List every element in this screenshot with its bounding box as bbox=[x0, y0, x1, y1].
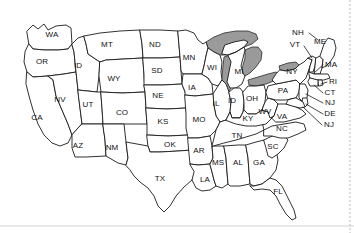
state-label-ri: RI bbox=[329, 78, 337, 86]
state-label-az: AZ bbox=[73, 142, 83, 150]
state-label-tn: TN bbox=[232, 132, 243, 140]
leader-line-vt bbox=[304, 46, 312, 58]
state-label-nd: ND bbox=[149, 41, 161, 49]
state-label-va: VA bbox=[277, 113, 287, 121]
state-label-md: NJ bbox=[324, 121, 334, 129]
state-label-wa: WA bbox=[46, 31, 59, 39]
state-label-in: ID bbox=[228, 97, 236, 105]
state-label-ca: CA bbox=[31, 114, 42, 122]
state-label-oh: OH bbox=[246, 95, 258, 103]
state-ne-shape bbox=[144, 84, 188, 109]
state-label-ga: GA bbox=[253, 159, 265, 167]
state-label-ia: IA bbox=[188, 84, 196, 92]
state-label-mo: MO bbox=[192, 116, 205, 124]
state-label-nj: NJ bbox=[325, 99, 335, 107]
state-label-il: IL bbox=[213, 100, 220, 108]
state-label-ar: AR bbox=[193, 147, 204, 155]
state-label-sd: SD bbox=[151, 67, 162, 75]
state-ct-shape bbox=[308, 78, 318, 86]
state-label-tx: TX bbox=[155, 175, 165, 183]
state-label-fl: FL bbox=[273, 188, 283, 196]
state-wy-shape bbox=[99, 58, 145, 93]
state-label-la: LA bbox=[200, 176, 210, 184]
state-label-ma: MA bbox=[325, 61, 337, 69]
state-label-sc: SC bbox=[267, 143, 278, 151]
state-label-pa: PA bbox=[278, 87, 288, 95]
leader-line-ct bbox=[314, 85, 323, 93]
state-label-mn: MN bbox=[183, 54, 196, 62]
state-label-wy: WY bbox=[107, 75, 120, 83]
state-label-mt: MT bbox=[101, 41, 113, 49]
state-label-de: DE bbox=[324, 110, 335, 118]
leader-line-md bbox=[303, 107, 322, 125]
state-label-nv: NV bbox=[54, 96, 65, 104]
state-label-ct: CT bbox=[325, 89, 336, 97]
state-mt-shape bbox=[84, 30, 143, 62]
state-label-ok: OK bbox=[164, 141, 176, 149]
state-label-id: ID bbox=[74, 62, 82, 70]
state-label-ny: NY bbox=[286, 68, 297, 76]
state-label-me: ME bbox=[314, 38, 326, 46]
state-label-nm: NM bbox=[106, 144, 119, 152]
state-label-ks: KS bbox=[158, 118, 169, 126]
state-label-wi: WI bbox=[207, 64, 217, 72]
state-label-or: OR bbox=[36, 58, 48, 66]
state-label-wv: WV bbox=[258, 108, 271, 116]
state-label-ms: MS bbox=[212, 159, 224, 167]
state-label-al: AL bbox=[233, 159, 243, 167]
state-label-vt: VT bbox=[290, 41, 300, 49]
us-states-map-figure: WAORIDMTWYNDSDNEKSCANVUTCOAZNMTXOKMNIAMO… bbox=[0, 0, 354, 233]
state-label-nc: NC bbox=[276, 125, 288, 133]
state-label-nh: NH bbox=[292, 29, 304, 37]
state-label-ky: KY bbox=[243, 115, 254, 123]
leader-line-nj bbox=[306, 94, 323, 103]
state-label-ne: NE bbox=[152, 92, 163, 100]
state-ri-shape bbox=[318, 80, 323, 86]
state-label-ut: UT bbox=[83, 101, 94, 109]
state-label-co: CO bbox=[116, 109, 128, 117]
state-label-mi: MI bbox=[234, 68, 243, 76]
